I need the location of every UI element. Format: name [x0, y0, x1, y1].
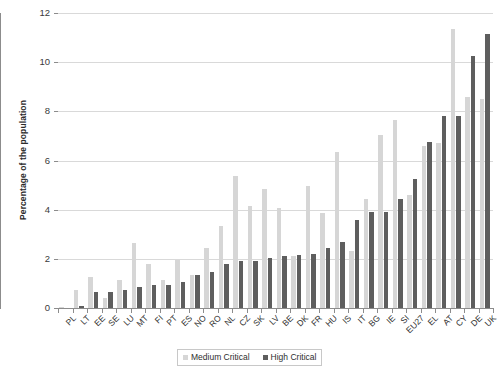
- bar-high-critical: [181, 282, 186, 308]
- bar-medium-critical: [132, 243, 137, 308]
- high-critical-swatch: [263, 355, 268, 360]
- bar-group: [464, 13, 479, 308]
- bar-medium-critical: [161, 280, 166, 308]
- bar-high-critical: [297, 255, 302, 308]
- bar-group: [73, 13, 88, 308]
- bar-high-critical: [427, 142, 432, 308]
- bar-group: [218, 13, 233, 308]
- bar-medium-critical: [436, 143, 441, 308]
- bar-high-critical: [326, 248, 331, 308]
- bar-group: [232, 13, 247, 308]
- bar-group: [261, 13, 276, 308]
- bar-medium-critical: [146, 264, 151, 308]
- bar-medium-critical: [306, 186, 311, 308]
- bar-medium-critical: [407, 195, 412, 308]
- y-axis-title: Percentage of the population: [18, 45, 28, 275]
- bar-group: [377, 13, 392, 308]
- bar-medium-critical: [422, 146, 427, 308]
- bar-group: [116, 13, 131, 308]
- bar-medium-critical: [465, 97, 470, 308]
- bar-high-critical: [123, 290, 128, 308]
- bar-medium-critical: [204, 248, 209, 308]
- bar-high-critical: [108, 292, 113, 308]
- y-axis-line: [0, 13, 1, 309]
- x-axis-labels: PLLTEESELUMTFIPTESNORONLCZSKLVBEDKFRHUIS…: [58, 313, 493, 349]
- plot-area: [58, 13, 493, 308]
- bar-high-critical: [239, 261, 244, 308]
- bar-high-critical: [340, 242, 345, 308]
- bar-group: [363, 13, 378, 308]
- bar-group: [131, 13, 146, 308]
- bar-high-critical: [195, 275, 200, 308]
- bar-high-critical: [210, 272, 215, 308]
- bar-high-critical: [94, 292, 99, 308]
- bar-group: [160, 13, 175, 308]
- bar-group: [102, 13, 117, 308]
- chart-legend: Medium Critical High Critical: [177, 349, 322, 366]
- bar-group: [435, 13, 450, 308]
- bar-high-critical: [369, 212, 374, 308]
- bar-medium-critical: [451, 29, 456, 308]
- legend-item-medium-critical: Medium Critical: [183, 353, 250, 362]
- bar-medium-critical: [74, 290, 79, 308]
- bar-group: [450, 13, 465, 308]
- bar-medium-critical: [117, 280, 122, 308]
- legend-label-medium-critical: Medium Critical: [191, 353, 250, 362]
- y-axis-tick-label: 0: [22, 303, 50, 313]
- bar-high-critical: [311, 254, 316, 308]
- bar-medium-critical: [262, 189, 267, 308]
- medium-critical-swatch: [183, 355, 188, 360]
- bar-group: [145, 13, 160, 308]
- bar-medium-critical: [291, 256, 296, 308]
- bar-medium-critical: [233, 176, 238, 308]
- bar-medium-critical: [219, 226, 224, 308]
- bar-high-critical: [413, 179, 418, 308]
- bar-group: [58, 13, 73, 308]
- bar-medium-critical: [88, 277, 93, 308]
- bar-group: [290, 13, 305, 308]
- bar-group: [334, 13, 349, 308]
- bar-group: [348, 13, 363, 308]
- bar-group: [479, 13, 494, 308]
- bar-high-critical: [384, 212, 389, 308]
- legend-item-high-critical: High Critical: [263, 353, 317, 362]
- bar-medium-critical: [103, 298, 108, 308]
- bar-medium-critical: [248, 206, 253, 308]
- bar-medium-critical: [349, 251, 354, 308]
- bar-medium-critical: [393, 120, 398, 308]
- bar-high-critical: [166, 285, 171, 308]
- legend-label-high-critical: High Critical: [271, 353, 317, 362]
- bar-medium-critical: [320, 213, 325, 308]
- bar-high-critical: [152, 285, 157, 308]
- bar-high-critical: [137, 287, 142, 308]
- bar-high-critical: [268, 258, 273, 308]
- bar-group: [203, 13, 218, 308]
- bar-medium-critical: [175, 260, 180, 308]
- bar-medium-critical: [364, 199, 369, 308]
- bar-medium-critical: [335, 152, 340, 308]
- bar-group: [421, 13, 436, 308]
- bar-high-critical: [456, 116, 461, 308]
- bar-high-critical: [442, 116, 447, 308]
- x-axis-tick-mark: [493, 308, 494, 313]
- bar-medium-critical: [378, 135, 383, 308]
- bar-chart: Percentage of the population 024681012 P…: [0, 0, 500, 372]
- bar-high-critical: [471, 56, 476, 308]
- bar-high-critical: [398, 199, 403, 308]
- bar-group: [276, 13, 291, 308]
- bar-high-critical: [282, 256, 287, 308]
- bar-group: [87, 13, 102, 308]
- bar-group: [319, 13, 334, 308]
- bar-group: [174, 13, 189, 308]
- y-axis-tick-label: 12: [22, 8, 50, 18]
- bar-high-critical: [224, 264, 229, 308]
- bar-group: [392, 13, 407, 308]
- bar-high-critical: [253, 261, 258, 308]
- bar-high-critical: [355, 220, 360, 309]
- bar-group: [406, 13, 421, 308]
- bar-group: [305, 13, 320, 308]
- bar-medium-critical: [190, 275, 195, 308]
- bar-medium-critical: [277, 208, 282, 308]
- bar-group: [247, 13, 262, 308]
- bar-group: [189, 13, 204, 308]
